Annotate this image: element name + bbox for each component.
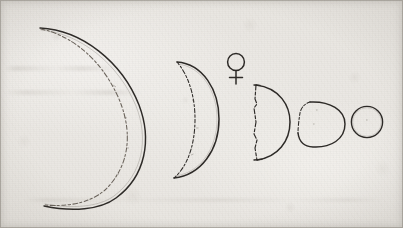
phase-5-limb [351, 106, 382, 137]
phase-5-full-disc [351, 106, 382, 137]
phase-3-half-disc [254, 85, 290, 160]
phase-3-terminator [254, 85, 257, 160]
phase-1-outer-limb-ghost [41, 30, 143, 207]
phase-3-outer-limb [256, 85, 290, 160]
phase-1-outer-limb [40, 28, 145, 209]
venus-phases-plate [0, 0, 403, 228]
phase-4-outer-limb [298, 102, 345, 147]
phase-2-outer-limb [174, 62, 219, 178]
phase-1-thin-crescent [40, 28, 145, 209]
phase-4-terminator [298, 102, 310, 133]
phase-1-terminator [41, 29, 127, 205]
venus-phases-figure [0, 0, 403, 228]
phase-3-cusp-bottom [254, 159, 262, 160]
venus-symbol-circle [228, 54, 245, 71]
phase-2-crescent [174, 62, 219, 178]
phase-5-limb-ghost [353, 108, 382, 137]
phase-1-terminator-fleck [113, 85, 129, 175]
phase-4-inner-speck [313, 110, 318, 124]
phase-2-outer-limb-ghost [175, 64, 217, 176]
venus-symbol [228, 54, 245, 84]
phase-2-terminator [174, 62, 195, 178]
phase-4-gibbous [298, 102, 345, 147]
